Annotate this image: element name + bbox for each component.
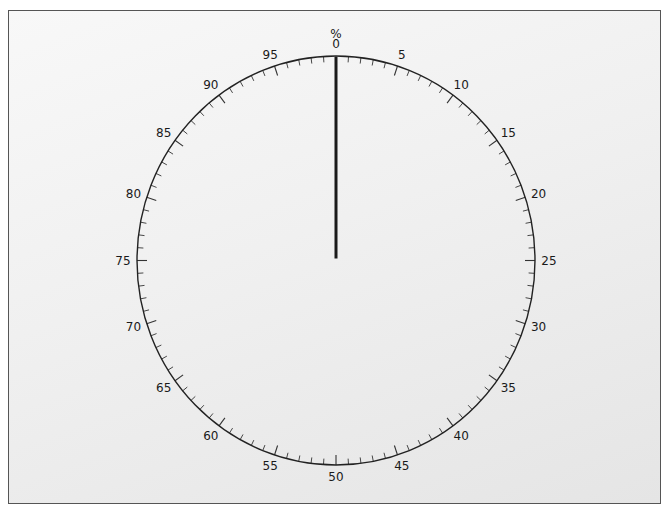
minor-tick bbox=[251, 75, 254, 80]
minor-tick bbox=[523, 310, 529, 312]
minor-tick bbox=[526, 298, 532, 299]
tick-label: 10 bbox=[454, 78, 469, 92]
minor-tick bbox=[523, 210, 529, 212]
minor-tick bbox=[429, 81, 432, 86]
tick-label: 90 bbox=[203, 78, 218, 92]
tick-label: 30 bbox=[531, 320, 546, 334]
minor-tick bbox=[526, 222, 532, 223]
minor-tick bbox=[139, 285, 145, 286]
major-tick bbox=[219, 95, 225, 103]
minor-tick bbox=[429, 434, 432, 439]
minor-tick bbox=[384, 62, 385, 68]
tick-label: 45 bbox=[394, 459, 409, 473]
minor-tick bbox=[505, 356, 510, 359]
minor-tick bbox=[229, 88, 232, 93]
tick-label: 50 bbox=[328, 470, 343, 484]
minor-tick bbox=[168, 367, 173, 370]
major-tick bbox=[175, 140, 183, 146]
minor-tick bbox=[287, 62, 288, 68]
tick-label: 75 bbox=[115, 254, 130, 268]
unit-label: % bbox=[330, 27, 341, 41]
tick-label: 60 bbox=[203, 429, 218, 443]
tick-label: 15 bbox=[501, 126, 516, 140]
tick-label: 80 bbox=[126, 187, 141, 201]
major-tick bbox=[516, 321, 526, 324]
minor-tick bbox=[407, 445, 409, 451]
minor-tick bbox=[251, 440, 254, 445]
minor-tick bbox=[477, 396, 481, 400]
gauge-stage: 05101520253035404550556065707580859095 % bbox=[0, 0, 668, 513]
minor-tick bbox=[384, 453, 385, 459]
minor-tick bbox=[299, 455, 300, 461]
major-tick bbox=[516, 197, 526, 200]
major-tick bbox=[219, 418, 225, 426]
tick-label: 70 bbox=[126, 320, 141, 334]
tick-label: 65 bbox=[156, 381, 171, 395]
minor-tick bbox=[468, 111, 472, 115]
minor-tick bbox=[162, 162, 167, 165]
tick-label: 25 bbox=[541, 254, 556, 268]
minor-tick bbox=[459, 413, 463, 418]
tick-label: 95 bbox=[263, 48, 278, 62]
minor-tick bbox=[240, 81, 243, 86]
minor-tick bbox=[209, 103, 213, 108]
minor-tick bbox=[183, 387, 188, 391]
minor-tick bbox=[515, 334, 521, 336]
major-tick bbox=[275, 445, 278, 455]
minor-tick bbox=[200, 111, 204, 115]
minor-tick bbox=[299, 60, 300, 66]
major-tick bbox=[447, 95, 453, 103]
major-tick bbox=[394, 66, 397, 76]
major-tick bbox=[275, 66, 278, 76]
minor-tick bbox=[439, 88, 442, 93]
minor-tick bbox=[156, 173, 161, 176]
minor-tick bbox=[459, 103, 463, 108]
minor-tick bbox=[527, 235, 533, 236]
tick-label: 20 bbox=[531, 187, 546, 201]
tick-label: 5 bbox=[398, 48, 406, 62]
minor-tick bbox=[439, 428, 442, 433]
minor-tick bbox=[263, 70, 265, 76]
minor-tick bbox=[485, 130, 490, 134]
minor-tick bbox=[183, 130, 188, 134]
minor-tick bbox=[511, 173, 516, 176]
minor-tick bbox=[141, 298, 147, 299]
tick-label: 85 bbox=[156, 126, 171, 140]
minor-tick bbox=[168, 151, 173, 154]
major-tick bbox=[394, 445, 397, 455]
minor-tick bbox=[209, 413, 213, 418]
minor-tick bbox=[143, 210, 149, 212]
major-tick bbox=[447, 418, 453, 426]
major-tick bbox=[489, 140, 497, 146]
minor-tick bbox=[263, 445, 265, 451]
minor-tick bbox=[151, 185, 157, 187]
minor-tick bbox=[515, 185, 521, 187]
minor-tick bbox=[360, 457, 361, 463]
minor-tick bbox=[499, 151, 504, 154]
major-tick bbox=[489, 375, 497, 381]
minor-tick bbox=[287, 453, 288, 459]
minor-tick bbox=[229, 428, 232, 433]
minor-tick bbox=[407, 70, 409, 76]
tick-label: 40 bbox=[454, 429, 469, 443]
minor-tick bbox=[418, 75, 421, 80]
percent-dial: 05101520253035404550556065707580859095 % bbox=[0, 0, 668, 513]
minor-tick bbox=[468, 405, 472, 409]
major-tick bbox=[175, 375, 183, 381]
minor-tick bbox=[200, 405, 204, 409]
minor-tick bbox=[418, 440, 421, 445]
minor-tick bbox=[360, 58, 361, 64]
minor-tick bbox=[240, 434, 243, 439]
minor-tick bbox=[485, 387, 490, 391]
minor-tick bbox=[141, 222, 147, 223]
minor-tick bbox=[372, 60, 373, 66]
tick-label: 55 bbox=[263, 459, 278, 473]
minor-tick bbox=[511, 345, 516, 348]
minor-tick bbox=[191, 121, 195, 125]
minor-tick bbox=[311, 457, 312, 463]
minor-tick bbox=[372, 455, 373, 461]
minor-tick bbox=[311, 58, 312, 64]
major-tick bbox=[147, 321, 157, 324]
minor-tick bbox=[527, 285, 533, 286]
minor-tick bbox=[191, 396, 195, 400]
